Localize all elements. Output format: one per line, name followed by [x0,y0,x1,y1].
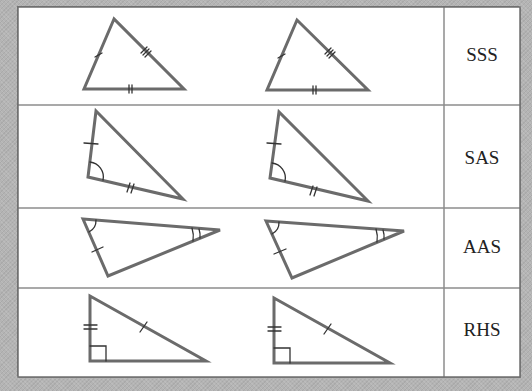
label-rhs: RHS [444,319,520,341]
label-sas: SAS [444,147,520,169]
rhs-left-marks [84,322,147,361]
rhs-triangle-left [90,296,206,361]
double-angle-arc-icon [376,229,377,242]
sas-triangle-left [88,111,183,199]
rhs-row-figures [90,296,390,363]
label-sss: SSS [444,44,520,66]
rhs-right-marks [268,324,331,363]
double-angle-arc-icon [192,228,193,241]
single-tick-icon [267,143,281,144]
rhs-triangle-right [274,298,390,363]
single-tick-icon [84,143,98,144]
sss-left-tick-marks [95,47,151,93]
sas-triangle-right [270,112,368,201]
angle-arc-icon [272,222,279,234]
right-angle-icon [90,346,106,361]
angle-arc-icon [89,220,96,232]
aas-triangle-left [83,219,220,276]
right-angle-icon [274,348,290,363]
label-aas: AAS [444,236,520,258]
sas-row-figures [88,111,368,201]
sss-right-tick-marks [278,48,335,94]
aas-row-figures [83,219,404,278]
